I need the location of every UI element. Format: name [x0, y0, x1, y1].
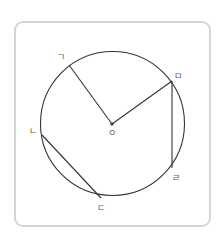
- radius-o-mieum: [112, 81, 172, 124]
- center-point: [110, 122, 113, 125]
- chord-nieun-digeut: [42, 135, 101, 198]
- point-label-mieum: ㅁ: [174, 71, 182, 81]
- point-label-rieul: ㄹ: [172, 173, 180, 183]
- point-label-digeut: ㄷ: [97, 203, 105, 213]
- radius-o-giyeok: [69, 65, 112, 124]
- point-label-nieun: ㄴ: [29, 126, 37, 136]
- circle-diagram: ㅇ ㄱ ㅁ ㄹ ㄴ ㄷ: [0, 0, 221, 238]
- center-label: ㅇ: [108, 128, 116, 138]
- point-label-giyeok: ㄱ: [57, 52, 65, 62]
